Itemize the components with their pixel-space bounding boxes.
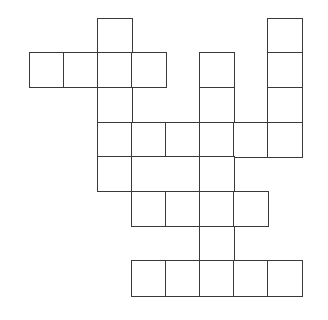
cell-letter (98, 88, 132, 122)
cell-letter (268, 88, 302, 122)
cell-letter (268, 53, 302, 87)
cell-letter (200, 227, 234, 261)
cell-letter (132, 192, 166, 226)
crossword-cell-r5-c6[interactable] (233, 191, 269, 227)
cell-letter (132, 53, 166, 87)
cell-letter (268, 19, 302, 53)
crossword-cell-r4-c2[interactable] (97, 156, 133, 192)
crossword-cell-r1-c0[interactable] (29, 52, 65, 88)
cell-letter (200, 192, 234, 226)
crossword-cell-r5-c5[interactable] (199, 191, 235, 227)
cell-letter (200, 157, 234, 191)
cell-letter (30, 53, 64, 87)
cell-letter (234, 192, 268, 226)
cell-letter (268, 261, 302, 295)
crossword-cell-r7-c7[interactable] (267, 260, 303, 296)
crossword-cell-r4-c5[interactable] (199, 156, 235, 192)
cell-letter (132, 261, 166, 295)
cell-letter (166, 192, 200, 226)
crossword-cell-r4-c3[interactable] (131, 156, 201, 192)
crossword-cell-r1-c1[interactable] (63, 52, 99, 88)
cell-letter (200, 53, 234, 87)
crossword-cell-r1-c3[interactable] (131, 52, 167, 88)
crossword-cell-r3-c6[interactable] (233, 122, 269, 158)
cell-letter (98, 19, 132, 53)
crossword-cell-r5-c4[interactable] (165, 191, 201, 227)
crossword-cell-r1-c2[interactable] (97, 52, 133, 88)
cell-letter (64, 53, 98, 87)
crossword-cell-r7-c6[interactable] (233, 260, 269, 296)
crossword-cell-r7-c4[interactable] (165, 260, 201, 296)
cell-letter (234, 123, 268, 157)
crossword-cell-r6-c5[interactable] (199, 226, 235, 262)
crossword-cell-r3-c5[interactable] (199, 122, 235, 158)
crossword-cell-r7-c3[interactable] (131, 260, 167, 296)
crossword-cell-r0-c7[interactable] (267, 18, 303, 54)
cell-letter (98, 53, 132, 87)
crossword-cell-r7-c5[interactable] (199, 260, 235, 296)
crossword-cell-r0-c2[interactable] (97, 18, 133, 54)
cell-letter (200, 261, 234, 295)
crossword-cell-r1-c5[interactable] (199, 52, 235, 88)
crossword-cell-r5-c3[interactable] (131, 191, 167, 227)
cell-letter (166, 261, 200, 295)
crossword-cell-r2-c2[interactable] (97, 87, 133, 123)
cell-letter (166, 123, 200, 157)
crossword-cell-r3-c4[interactable] (165, 122, 201, 158)
crossword-cell-r3-c2[interactable] (97, 122, 133, 158)
cell-letter (98, 157, 132, 191)
cell-letter (132, 123, 166, 157)
crossword-cell-r2-c5[interactable] (199, 87, 235, 123)
cell-letter (98, 123, 132, 157)
crossword-cell-r2-c7[interactable] (267, 87, 303, 123)
cell-letter (200, 123, 234, 157)
crossword-grid (0, 0, 328, 320)
cell-letter (234, 261, 268, 295)
cell-letter (200, 88, 234, 122)
crossword-cell-r3-c7[interactable] (267, 122, 303, 158)
crossword-cell-r1-c7[interactable] (267, 52, 303, 88)
cell-letter (132, 157, 200, 191)
cell-letter (268, 123, 302, 157)
crossword-cell-r3-c3[interactable] (131, 122, 167, 158)
